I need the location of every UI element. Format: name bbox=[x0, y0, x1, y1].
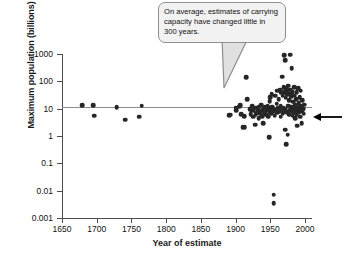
scatter-point bbox=[272, 201, 277, 206]
scatter-point bbox=[283, 127, 288, 132]
scatter-point bbox=[299, 121, 304, 126]
x-tick bbox=[201, 218, 202, 223]
x-tick-label: 1650 bbox=[53, 224, 72, 234]
y-tick-label: 0.001 bbox=[32, 213, 53, 223]
scatter-point bbox=[80, 103, 85, 108]
scatter-point bbox=[290, 66, 295, 71]
scatter-point bbox=[284, 142, 289, 147]
x-tick bbox=[62, 218, 63, 223]
y-axis-title: Maximum population (billions) bbox=[26, 0, 36, 145]
x-tick-label: 1700 bbox=[87, 224, 106, 234]
callout-annotation: On average, estimates of carrying capaci… bbox=[158, 2, 286, 43]
scatter-point bbox=[253, 122, 258, 127]
scatter-point bbox=[238, 103, 243, 108]
scatter-point bbox=[267, 135, 272, 140]
scatter-point bbox=[280, 74, 285, 79]
x-tick-label: 1800 bbox=[157, 224, 176, 234]
x-axis-title: Year of estimate bbox=[62, 238, 312, 248]
figure: 10001001010.10.010.001 16501700175018001… bbox=[0, 0, 345, 257]
x-tick-label: 1950 bbox=[261, 224, 280, 234]
scatter-point bbox=[244, 75, 249, 80]
scatter-point bbox=[123, 117, 128, 122]
scatter-point bbox=[91, 103, 96, 108]
scatter-point bbox=[272, 192, 277, 197]
scatter-point bbox=[283, 58, 288, 63]
y-tick-label: 0.01 bbox=[36, 186, 53, 196]
scatter-point bbox=[301, 111, 306, 116]
scatter-point bbox=[245, 97, 250, 102]
y-tick-label: 10 bbox=[44, 104, 53, 114]
scatter-point bbox=[261, 121, 266, 126]
plot-area bbox=[62, 54, 312, 218]
scatter-point bbox=[242, 125, 247, 130]
x-tick-label: 1750 bbox=[122, 224, 141, 234]
scatter-point bbox=[137, 115, 142, 120]
scatter-point bbox=[140, 103, 145, 108]
scatter-point bbox=[301, 106, 306, 111]
x-axis-line bbox=[62, 218, 312, 219]
y-tick-label: 100 bbox=[39, 76, 53, 86]
scatter-point bbox=[302, 102, 307, 107]
x-tick bbox=[131, 218, 132, 223]
y-tick-label: 1 bbox=[48, 131, 53, 141]
y-tick-label: 0.1 bbox=[41, 158, 53, 168]
scatter-point bbox=[228, 112, 233, 117]
x-tick bbox=[270, 218, 271, 223]
scatter-point bbox=[92, 113, 97, 118]
y-tick-label: 1000 bbox=[34, 49, 53, 59]
x-tick-label: 1900 bbox=[226, 224, 245, 234]
scatter-point bbox=[242, 114, 247, 119]
scatter-point bbox=[299, 89, 304, 94]
x-tick bbox=[166, 218, 167, 223]
scatter-point bbox=[115, 105, 120, 110]
scatter-point bbox=[288, 52, 293, 57]
x-tick bbox=[236, 218, 237, 223]
left-arrow-icon bbox=[313, 111, 343, 123]
scatter-point bbox=[285, 133, 290, 138]
x-tick-label: 1850 bbox=[191, 224, 210, 234]
x-tick-label: 2000 bbox=[296, 224, 315, 234]
x-tick bbox=[97, 218, 98, 223]
x-tick bbox=[305, 218, 306, 223]
